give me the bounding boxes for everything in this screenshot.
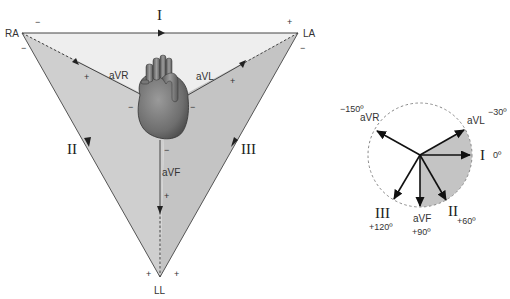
sign-aVR-minus: − [128, 102, 133, 112]
sign-aVL-minus: − [190, 102, 195, 112]
vertex-label-ll: LL [154, 285, 166, 296]
sign-aVF-plus: + [164, 191, 169, 201]
sign-ra-I: − [35, 17, 40, 27]
axis-angle-aVL: −30º [488, 107, 507, 117]
axis-label-I: I [480, 147, 485, 163]
sign-ll-III: + [174, 269, 179, 279]
einthoven-diagram: RA LA LL I II III aVR aVL aVF − + − − + … [0, 0, 510, 299]
lead-label-III: III [241, 141, 256, 157]
vertex-label-ra: RA [5, 28, 19, 39]
vertex-label-la: LA [303, 28, 316, 39]
axis-label-aVL: aVL [467, 115, 485, 126]
hexaxial-reference: I 0º aVL −30º II +60º aVF +90º III +120º… [340, 103, 507, 237]
einthoven-triangle: RA LA LL I II III aVR aVL aVF − + − − + … [5, 7, 316, 296]
lead-label-II: II [67, 141, 77, 157]
axis-angle-III: +120º [369, 222, 393, 232]
sign-aVR-plus: + [84, 72, 89, 82]
axis-label-III: III [375, 205, 390, 221]
lead-label-aVR: aVR [109, 70, 128, 81]
lead-label-aVL: aVL [196, 71, 214, 82]
sign-ll-II: + [146, 269, 151, 279]
sign-la-I: + [287, 17, 292, 27]
lead-label-aVF: aVF [162, 167, 180, 178]
axis-angle-aVF: +90º [412, 227, 431, 237]
sign-ra-II: − [21, 43, 26, 53]
axis-angle-II: +60º [457, 216, 476, 226]
axis-angle-I: 0º [493, 150, 502, 160]
axis-angle-aVR: −150º [340, 104, 364, 114]
lead-label-I: I [157, 7, 162, 23]
axis-label-aVF: aVF [413, 213, 431, 224]
axis-aVR [377, 131, 420, 155]
axis-III [394, 155, 420, 199]
sign-aVL-plus: + [230, 76, 235, 86]
sign-aVF-minus: − [164, 145, 169, 155]
sign-la-III: − [300, 43, 305, 53]
